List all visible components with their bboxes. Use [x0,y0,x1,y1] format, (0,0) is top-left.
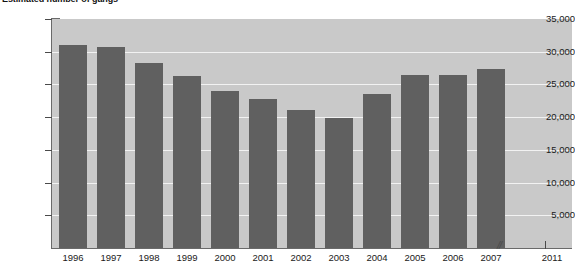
bar-2000 [211,91,239,248]
chart-title: Estimated number of gangs [2,0,118,4]
x-axis-tick-label-1998: 1998 [129,253,169,263]
x-axis-tick-label-2002: 2002 [281,253,321,263]
bar-2005 [401,75,429,248]
axis-break-marker: // [497,240,501,251]
bar-2006 [439,75,467,248]
y-axis-tick [45,117,52,118]
x-axis-tick-label-2004: 2004 [357,253,397,263]
y-axis-tick-label: 5,000 [531,210,575,220]
x-axis-tick-label-2000: 2000 [205,253,245,263]
bar-2002 [287,110,315,248]
y-axis-tick [45,183,52,184]
y-axis-tick [45,150,52,151]
x-axis-tick-label-2005: 2005 [395,253,435,263]
bar-1998 [135,63,163,248]
x-axis-tick-label-2001: 2001 [243,253,283,263]
bar-2001 [249,99,277,248]
x-axis-tick-label-2011: 2011 [532,253,572,263]
bar-chart: Estimated number of gangs 5,00010,00015,… [0,0,575,277]
y-axis-tick [45,52,52,53]
x-axis-tick-label-2003: 2003 [319,253,359,263]
y-axis-tick [45,84,52,85]
x-axis-line [51,248,572,249]
y-axis-tick-label: 30,000 [531,47,575,57]
y-axis-tick-label: 10,000 [531,178,575,188]
y-axis-tick-label: 15,000 [531,145,575,155]
y-axis-tick-label: 35,000 [531,14,575,24]
y-axis-tick-label: 25,000 [531,79,575,89]
bar-1996 [59,45,87,248]
bar-1997 [97,47,125,248]
bar-2003 [325,118,353,248]
x-axis-tick-label-1996: 1996 [53,253,93,263]
bar-1999 [173,76,201,248]
bar-2007 [477,69,505,248]
y-axis-tick [45,215,52,216]
x-axis-tick-label-2007: 2007 [471,253,511,263]
x-axis-tick-label-1999: 1999 [167,253,207,263]
bar-2004 [363,94,391,248]
y-axis-top-cap [51,18,60,19]
x-axis-tick-label-2006: 2006 [433,253,473,263]
y-axis-tick [45,19,52,20]
y-axis-tick-label: 20,000 [531,112,575,122]
plot-area [52,19,572,248]
gridline [52,52,572,53]
x-axis-tick-label-1997: 1997 [91,253,131,263]
x-axis-tick-2011 [545,241,546,249]
